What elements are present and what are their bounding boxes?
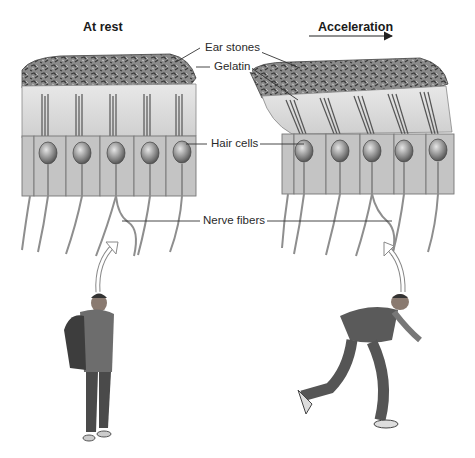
standing-person-figure bbox=[64, 294, 114, 442]
head-to-ear-arrow-left bbox=[98, 242, 118, 292]
hair-cell-block-at-rest bbox=[22, 54, 196, 256]
label-ear-stones: Ear stones bbox=[203, 41, 262, 53]
label-hair-cells: Hair cells bbox=[209, 137, 260, 149]
running-person-figure bbox=[298, 294, 420, 428]
label-nerve-fibers: Nerve fibers bbox=[201, 214, 267, 226]
label-gelatin: Gelatin bbox=[212, 60, 252, 72]
